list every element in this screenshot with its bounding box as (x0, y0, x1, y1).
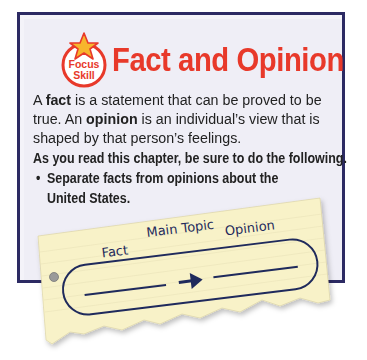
bullet-item-line-1: Separate facts from opinions about the (47, 170, 278, 186)
fact-line (85, 285, 166, 295)
bullet-marker: • (36, 170, 40, 186)
term-opinion: opinion (86, 110, 137, 127)
page-title: Fact and Opinion (112, 40, 344, 79)
svg-text:Skill: Skill (73, 69, 95, 81)
definition-line-2: true. An opinion is an individual’s view… (33, 110, 318, 128)
term-fact: fact (46, 91, 71, 108)
instruction-text: As you read this chapter, be sure to do … (33, 150, 347, 166)
bullet-item-line-2: United States. (47, 190, 130, 206)
definition-line-3: shaped by that person’s feelings. (33, 129, 318, 147)
definition-line-1: A fact is a statement that can be proved… (33, 91, 318, 109)
header: Focus Skill Fact and Opinion (44, 30, 334, 88)
focus-skill-badge-icon: Focus Skill (60, 32, 108, 88)
